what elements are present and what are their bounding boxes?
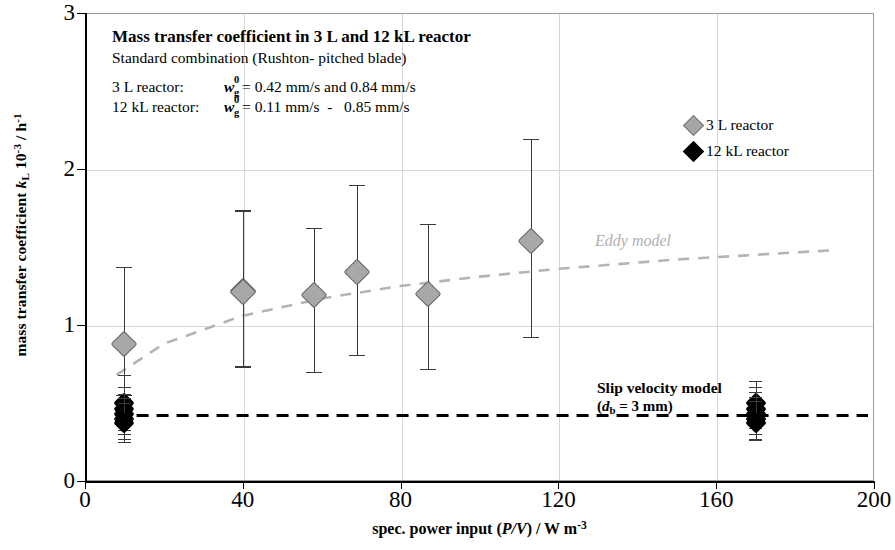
legend-item[interactable]: 3 L reactor <box>686 112 789 138</box>
condition-label: 3 L reactor: <box>112 77 224 97</box>
legend-label: 12 kL reactor <box>706 138 789 164</box>
chart-title: Mass transfer coefficient in 3 L and 12 … <box>112 26 582 47</box>
y-axis-title: mass transfer coefficient kL 10-3 / h-1 <box>11 0 31 470</box>
condition-value: = 0.11 mm/s - 0.85 mm/s <box>234 97 409 117</box>
conditions-list: 3 L reactor:w0g = 0.42 mm/s and 0.84 mm/… <box>112 77 582 117</box>
legend-marker-icon <box>683 114 704 135</box>
chart-subtitle: Standard combination (Rushton- pitched b… <box>112 47 582 68</box>
legend-label: 3 L reactor <box>706 112 773 138</box>
slip-db-symbol: d <box>602 398 610 414</box>
slip-label-line2: (db = 3 mm) <box>597 397 722 420</box>
y-axis-k-subscript: L <box>19 173 31 181</box>
condition-value: = 0.42 mm/s and 0.84 mm/s <box>234 77 415 97</box>
eddy-model-curve <box>117 250 835 375</box>
y-axis-exp2: -1 <box>11 113 23 123</box>
gas-velocity-symbol: w0g <box>224 97 234 117</box>
eddy-model-label: Eddy model <box>595 232 671 250</box>
y-axis-exp1: -3 <box>11 144 23 154</box>
y-axis-k-symbol: k <box>12 181 29 189</box>
legend-marker-icon <box>683 140 704 161</box>
gas-velocity-symbol: w0g <box>224 77 234 97</box>
slip-label-line1: Slip velocity model <box>597 378 722 397</box>
condition-label: 12 kL reactor: <box>112 97 224 117</box>
x-axis-exp: -3 <box>577 519 587 531</box>
legend-item[interactable]: 12 kL reactor <box>686 138 789 164</box>
slip-velocity-model-label: Slip velocity model (db = 3 mm) <box>597 378 722 420</box>
x-axis-title: spec. power input (P/V) / W m-3 <box>85 519 874 538</box>
x-axis-pv-symbol: P/V <box>502 520 527 537</box>
chart-title-block: Mass transfer coefficient in 3 L and 12 … <box>112 26 582 117</box>
condition-row: 12 kL reactor:w0g = 0.11 mm/s - 0.85 mm/… <box>112 97 582 117</box>
chart-legend: 3 L reactor12 kL reactor <box>686 112 789 164</box>
symbol-subscript: g <box>234 103 239 123</box>
condition-row: 3 L reactor:w0g = 0.42 mm/s and 0.84 mm/… <box>112 77 582 97</box>
